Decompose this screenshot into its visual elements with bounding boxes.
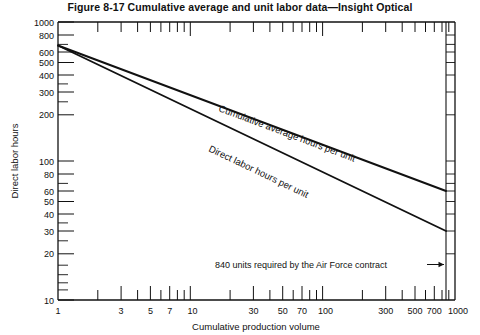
x-tick-label: 300 xyxy=(378,306,393,316)
y-tick-label: 400 xyxy=(39,71,54,81)
x-tick-label: 100 xyxy=(318,306,333,316)
y-tick-label: 100 xyxy=(39,157,54,167)
x-axis-ticks xyxy=(98,286,449,300)
x-tick-label: 3 xyxy=(119,306,124,316)
y-tick-label: 20 xyxy=(44,249,54,259)
x-axis-title: Cumulative production volume xyxy=(192,321,320,332)
reference-tick-ladder xyxy=(446,35,455,254)
x-tick-label: 10 xyxy=(187,306,197,316)
top-axis-ticks xyxy=(98,22,449,36)
y-tick-label: 600 xyxy=(39,48,54,58)
y-axis-title: Direct labor hours xyxy=(9,123,20,198)
y-tick-label: 500 xyxy=(39,58,54,68)
y-tick-label: 200 xyxy=(39,110,54,120)
x-tick-label: 70 xyxy=(297,306,307,316)
contract-note-label: 840 units required by the Air Force cont… xyxy=(215,260,388,270)
y-tick-label: 1000 xyxy=(34,18,54,28)
y-axis-ticks xyxy=(58,22,74,300)
x-tick-label: 30 xyxy=(248,306,258,316)
y-tick-label: 50 xyxy=(44,197,54,207)
x-tick-label: 50 xyxy=(278,306,288,316)
contract-note-arrow-icon xyxy=(427,262,444,267)
x-tick-label: 5 xyxy=(148,306,153,316)
x-tick-label: 1000 xyxy=(448,306,468,316)
direct-labor-curve-label: Direct labor hours per unit xyxy=(207,143,311,200)
plot-frame xyxy=(58,22,455,300)
chart-canvas: 1000 800 600 500 400 300 200 100 80 60 5… xyxy=(0,0,480,335)
y-tick-label: 40 xyxy=(44,210,54,220)
x-axis-tick-labels: 1 3 5 7 10 30 50 70 100 300 500 700 1000 xyxy=(55,306,468,316)
x-tick-label: 500 xyxy=(407,306,422,316)
x-tick-label: 7 xyxy=(167,306,172,316)
x-tick-label: 700 xyxy=(427,306,442,316)
direct-labor-curve xyxy=(58,46,446,232)
y-tick-label: 60 xyxy=(44,187,54,197)
y-tick-label: 800 xyxy=(39,31,54,41)
y-tick-label: 300 xyxy=(39,88,54,98)
y-tick-label: 10 xyxy=(44,296,54,306)
figure-container: Figure 8-17 Cumulative average and unit … xyxy=(0,0,480,335)
x-tick-label: 1 xyxy=(55,306,60,316)
y-tick-label: 30 xyxy=(44,227,54,237)
y-tick-label: 80 xyxy=(44,170,54,180)
y-axis-tick-labels: 1000 800 600 500 400 300 200 100 80 60 5… xyxy=(34,18,54,306)
